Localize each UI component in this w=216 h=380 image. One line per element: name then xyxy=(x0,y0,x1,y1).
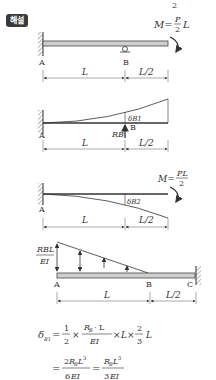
svg-text:EI: EI xyxy=(39,257,50,266)
svg-text:3: 3 xyxy=(118,355,121,361)
svg-text:· L: · L xyxy=(94,323,105,332)
svg-text:EI: EI xyxy=(89,337,100,346)
svg-text:B1: B1 xyxy=(43,336,51,342)
svg-text:2: 2 xyxy=(175,25,180,34)
svg-text:3: 3 xyxy=(83,355,86,361)
equations: δ B1 = 1 2 × R B · L EI × L × 2 3 L = 2 … xyxy=(38,323,152,380)
svg-text:RBL: RBL xyxy=(36,245,54,254)
svg-text:P: P xyxy=(174,15,181,24)
svg-text:=: = xyxy=(52,363,60,374)
svg-text:L: L xyxy=(103,290,110,300)
svg-text:L/2: L/2 xyxy=(138,138,154,148)
svg-text:2: 2 xyxy=(137,324,142,333)
svg-text:A: A xyxy=(38,58,45,67)
svg-text:3: 3 xyxy=(137,337,142,346)
beam-diagrams: 2 M= P 2 L A B L L/2 δB1 RB B xyxy=(0,0,216,380)
svg-text:L: L xyxy=(145,330,152,340)
svg-text:EI: EI xyxy=(109,372,120,380)
svg-text:1: 1 xyxy=(64,324,69,333)
svg-text:L: L xyxy=(120,330,127,340)
svg-text:M=: M= xyxy=(153,19,173,30)
svg-text:A: A xyxy=(53,280,60,289)
svg-text:EI: EI xyxy=(70,372,81,380)
svg-text:M=: M= xyxy=(157,174,175,184)
svg-text:A: A xyxy=(38,131,45,140)
svg-text:B: B xyxy=(88,327,93,333)
svg-text:L/2: L/2 xyxy=(165,290,181,300)
diagram-1: M= P 2 L A B L L/2 xyxy=(38,15,190,82)
svg-text:=: = xyxy=(92,363,100,374)
svg-text:×: × xyxy=(72,330,80,340)
svg-text:B: B xyxy=(123,58,129,67)
svg-text:2: 2 xyxy=(64,337,69,346)
svg-text:3: 3 xyxy=(104,372,109,380)
svg-text:×: × xyxy=(113,330,121,340)
svg-text:C: C xyxy=(187,280,193,289)
svg-text:L: L xyxy=(81,215,88,225)
svg-text:B: B xyxy=(130,123,136,132)
diagram-4: RBL EI A B C L L/2 xyxy=(36,242,201,304)
svg-text:L: L xyxy=(81,138,88,148)
svg-text:A: A xyxy=(38,205,45,214)
svg-text:6: 6 xyxy=(65,372,70,380)
svg-text:RB: RB xyxy=(111,130,124,139)
diagram-2: δB1 RB B A L L/2 xyxy=(38,99,168,152)
svg-text:L: L xyxy=(81,67,88,77)
svg-text:δB1: δB1 xyxy=(128,115,142,123)
svg-text:L/2: L/2 xyxy=(138,67,154,77)
svg-text:2: 2 xyxy=(179,179,184,188)
svg-text:L/2: L/2 xyxy=(138,215,154,225)
top-fragment: 2 xyxy=(172,1,177,10)
svg-text:δB2: δB2 xyxy=(127,198,141,206)
svg-text:×: × xyxy=(127,330,135,340)
svg-text:L: L xyxy=(182,19,190,30)
diagram-3: δB2 M= PL 2 A L L/2 xyxy=(38,169,188,230)
svg-text:=: = xyxy=(52,329,60,340)
svg-text:B: B xyxy=(146,280,152,289)
svg-text:PL: PL xyxy=(176,169,188,178)
